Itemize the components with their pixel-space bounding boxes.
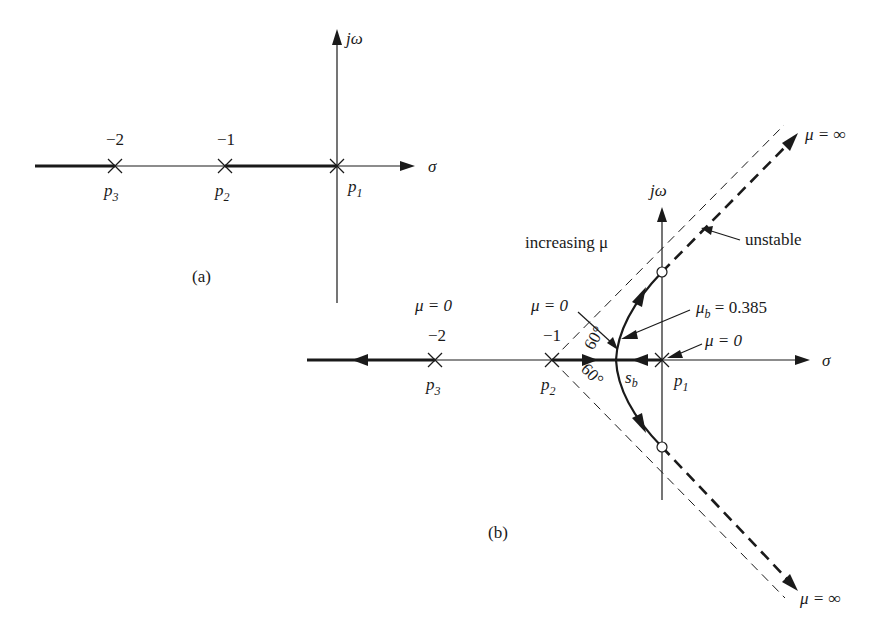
angle-label-lower: 60° bbox=[577, 359, 607, 389]
gain-label: μ = 0 bbox=[414, 296, 453, 315]
pointer-breakaway-gain bbox=[628, 310, 690, 336]
pole-name-label: p3 bbox=[103, 181, 119, 204]
figure-caption: (b) bbox=[488, 523, 508, 542]
infinity-label-upper: μ = ∞ bbox=[804, 125, 846, 144]
imag-axis-arrow-icon bbox=[332, 29, 342, 45]
imag-axis-arrow-icon bbox=[657, 207, 667, 222]
infinity-label-lower: μ = ∞ bbox=[799, 589, 841, 608]
root-locus-figure: −2 −1 p3 p2 p1 σ jω (a) bbox=[0, 0, 877, 632]
pole-name-label: p1 bbox=[673, 371, 689, 394]
pole-value-label: −2 bbox=[428, 326, 446, 345]
figure-a: −2 −1 p3 p2 p1 σ jω (a) bbox=[35, 29, 437, 303]
pole-name-label: p3 bbox=[425, 375, 441, 398]
real-axis-arrow-icon bbox=[400, 161, 415, 171]
pole-name-label: p2 bbox=[214, 181, 230, 204]
direction-arrow-icon bbox=[632, 354, 648, 366]
locus-unstable-lower bbox=[662, 447, 790, 582]
figure-b: μ = 0 μ = 0 −2 −1 p3 p2 p1 sb μ = 0 μb =… bbox=[307, 125, 846, 608]
pointer-arrow-icon bbox=[667, 350, 683, 358]
crossing-point-upper bbox=[657, 267, 667, 277]
direction-arrow-icon bbox=[352, 354, 368, 366]
pointer-arrow-icon bbox=[607, 337, 618, 350]
direction-arrow-icon bbox=[632, 413, 646, 433]
real-axis-arrow-icon bbox=[795, 355, 810, 365]
pointer-unstable bbox=[708, 230, 740, 240]
unstable-label: unstable bbox=[745, 230, 802, 249]
pole-value-label: −1 bbox=[217, 130, 235, 149]
increasing-label: increasing μ bbox=[525, 233, 608, 252]
imag-axis-label: jω bbox=[344, 29, 363, 48]
pole-value-label: −1 bbox=[543, 326, 561, 345]
figure-caption: (a) bbox=[192, 267, 211, 286]
locus-branch-upper bbox=[616, 272, 662, 360]
imag-axis-label: jω bbox=[648, 181, 667, 200]
pole-name-label: p2 bbox=[540, 375, 556, 398]
real-axis-label: σ bbox=[822, 351, 831, 370]
pole-value-label: −2 bbox=[106, 130, 124, 149]
asymptote-lower bbox=[552, 360, 785, 598]
crossing-point-lower bbox=[657, 442, 667, 452]
locus-unstable-upper bbox=[662, 142, 790, 272]
breakaway-gain-label: μb = 0.385 bbox=[695, 298, 767, 321]
pole-name-label: p1 bbox=[347, 177, 363, 200]
direction-arrow-icon bbox=[632, 287, 646, 307]
locus-branch-lower bbox=[616, 360, 662, 447]
gain-label: μ = 0 bbox=[530, 296, 569, 315]
infinity-arrow-icon bbox=[782, 133, 798, 151]
infinity-arrow-icon bbox=[782, 574, 798, 591]
real-axis-label: σ bbox=[428, 157, 437, 176]
pointer-arrow-icon bbox=[621, 330, 638, 339]
p1-gain-label: μ = 0 bbox=[704, 331, 743, 350]
breakaway-label: sb bbox=[625, 368, 638, 390]
